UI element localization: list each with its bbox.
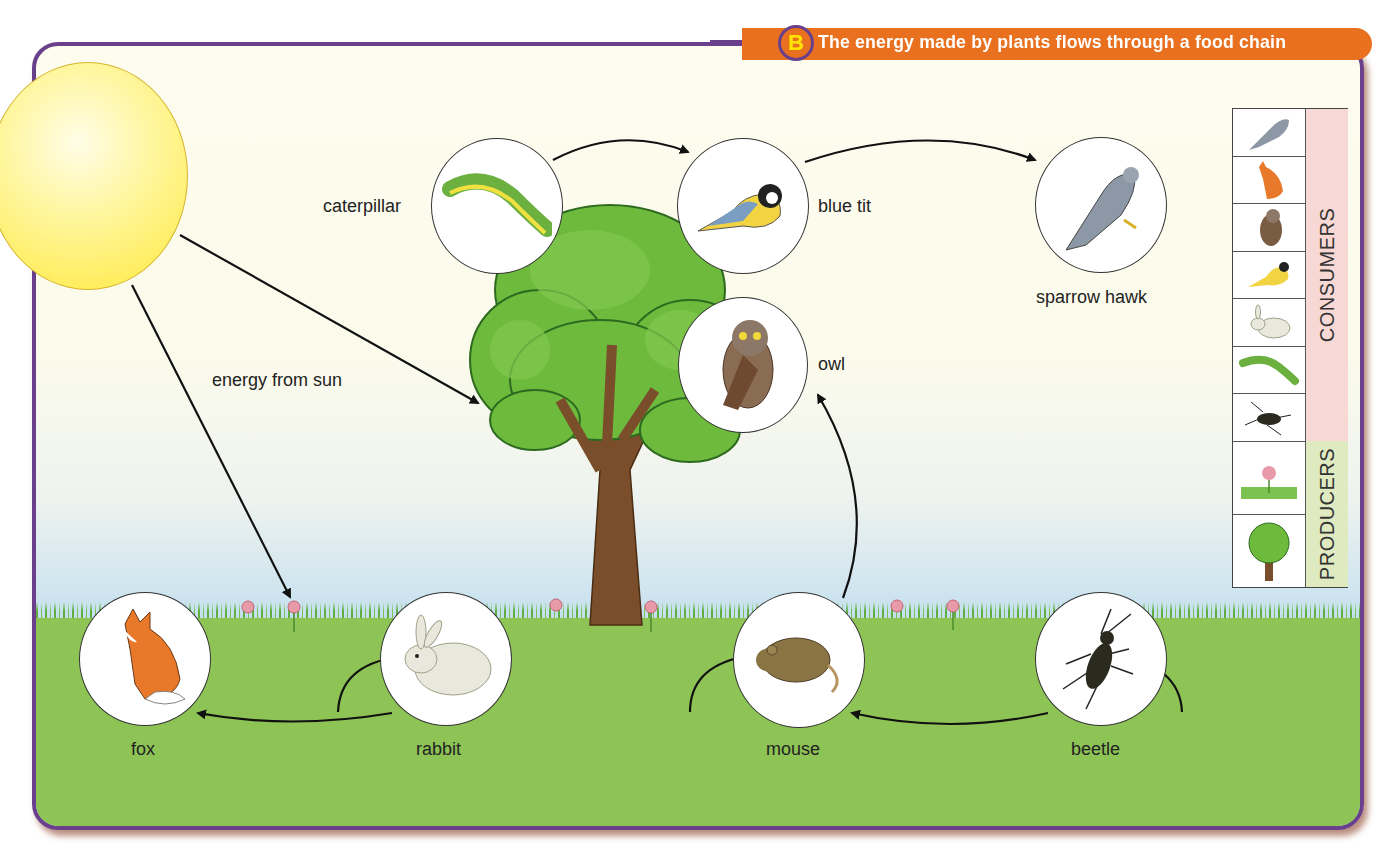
bluetit-icon	[688, 166, 798, 246]
legend-beetle-icon	[1233, 394, 1305, 442]
mouse-to-owl-arrow	[818, 395, 857, 598]
caterpillar-label: caterpillar	[323, 196, 401, 217]
beetle-circle	[1035, 592, 1167, 726]
fox-icon	[95, 604, 195, 714]
caterpillar-icon	[442, 171, 552, 241]
owl-label: owl	[818, 354, 845, 375]
mouse-icon	[744, 620, 854, 700]
bluetit-label: blue tit	[818, 196, 871, 217]
producers-column: PRODUCERS	[1305, 441, 1348, 587]
mouse-circle	[733, 592, 865, 728]
rabbit-circle	[380, 592, 512, 726]
consumers-label: CONSUMERS	[1316, 208, 1339, 343]
legend-sparrowhawk-icon	[1233, 109, 1305, 157]
beetle-icon	[1051, 604, 1151, 714]
sparrowhawk-circle	[1035, 137, 1167, 273]
producers-label: PRODUCERS	[1316, 448, 1339, 580]
sparrowhawk-label: sparrow hawk	[1036, 287, 1147, 308]
energy-from-sun-label: energy from sun	[212, 370, 342, 391]
owl-icon	[698, 310, 788, 420]
rabbit-label: rabbit	[416, 739, 461, 760]
legend-caterpillar-icon	[1233, 347, 1305, 395]
bluetit-to-hawk-arrow	[805, 140, 1035, 162]
legend-fox-icon	[1233, 157, 1305, 205]
beetle-label: beetle	[1071, 739, 1120, 760]
sun-to-flower-arrow	[132, 285, 290, 597]
bluetit-circle	[677, 138, 809, 274]
beetle-to-mouse-arrow	[852, 713, 1048, 724]
sparrowhawk-icon	[1046, 150, 1156, 260]
rabbit-icon	[391, 614, 501, 704]
rabbit-to-fox-arrow	[198, 713, 392, 722]
caterpillar-circle	[431, 138, 563, 274]
fox-label: fox	[131, 739, 155, 760]
owl-circle	[678, 297, 808, 433]
consumers-column: CONSUMERS	[1305, 109, 1348, 442]
legend-owl-icon	[1233, 204, 1305, 252]
legend-bluetit-icon	[1233, 252, 1305, 300]
energy-flow-arrows	[0, 0, 1384, 843]
legend-grass-flower-icon	[1233, 442, 1305, 515]
legend-table: CONSUMERS PRODUCERS	[1232, 108, 1348, 588]
fox-circle	[79, 592, 211, 726]
legend-rabbit-icon	[1233, 299, 1305, 347]
caterpillar-to-bluetit-arrow	[553, 140, 688, 160]
legend-tree-icon	[1233, 515, 1305, 588]
legend-icons	[1233, 109, 1305, 587]
mouse-label: mouse	[766, 739, 820, 760]
